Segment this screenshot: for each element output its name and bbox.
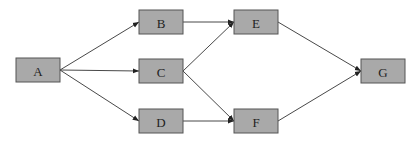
edge-c-e [183, 22, 234, 71]
node-label: C [157, 65, 166, 80]
node-d: D [139, 109, 183, 133]
node-label: A [33, 64, 43, 79]
node-b: B [139, 10, 183, 34]
edge-a-b [60, 22, 139, 70]
node-label: F [252, 115, 259, 130]
edge-e-g [278, 22, 361, 71]
node-label: E [252, 16, 260, 31]
node-e: E [234, 10, 278, 34]
edge-c-f [183, 71, 234, 121]
edge-a-d [60, 70, 139, 121]
node-a: A [16, 58, 60, 82]
edges-layer [60, 22, 361, 121]
node-g: G [361, 59, 405, 83]
edge-a-c [60, 70, 139, 71]
node-f: F [234, 109, 278, 133]
edge-f-g [278, 71, 361, 121]
node-label: B [157, 16, 166, 31]
node-c: C [139, 59, 183, 83]
network-diagram: ABCDEFG [0, 0, 416, 142]
node-label: D [156, 115, 165, 130]
node-label: G [378, 65, 387, 80]
nodes-layer: ABCDEFG [16, 10, 405, 133]
